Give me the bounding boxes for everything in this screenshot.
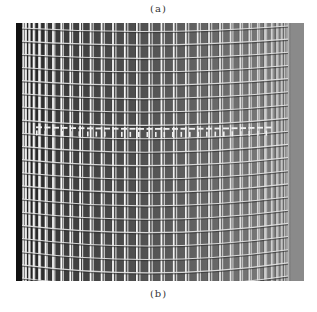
figure-caption-a: (a) xyxy=(0,3,317,14)
wire-mesh-graphic xyxy=(16,23,304,281)
figure-caption-b: (b) xyxy=(0,288,317,299)
mesh-cylinder-render xyxy=(16,23,304,281)
